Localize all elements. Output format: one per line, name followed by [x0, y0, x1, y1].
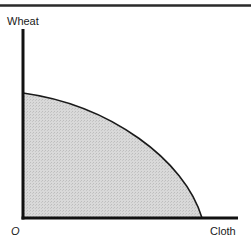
y-axis-label: Wheat — [7, 15, 39, 27]
x-axis-label: Cloth — [210, 225, 236, 237]
origin-label: O — [11, 225, 20, 237]
ppf-chart: Wheat Cloth O — [0, 0, 251, 248]
feasible-region — [23, 93, 202, 218]
